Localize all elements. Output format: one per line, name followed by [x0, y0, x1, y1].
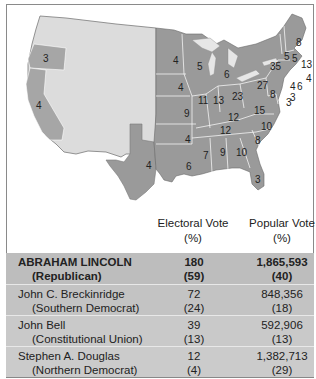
label-arkansas: 4: [185, 134, 191, 145]
electoral-cell: 180 (59): [171, 256, 217, 283]
table-row: John C. Breckinridge (Southern Democrat)…: [6, 285, 314, 316]
popular-pct: (29): [242, 364, 316, 378]
label-alabama: 9: [220, 147, 226, 158]
popular-cell: 1,382,713 (29): [242, 350, 316, 377]
label-missouri: 9: [184, 108, 190, 119]
label-minnesota: 4: [173, 55, 179, 66]
electoral-vote-header: Electoral Vote (%): [148, 216, 238, 246]
popular-pct: (13): [242, 333, 316, 347]
electoral-pct: (4): [171, 364, 217, 378]
label-michigan: 6: [224, 69, 230, 80]
label-oregon: 3: [43, 53, 49, 64]
label-wisconsin: 5: [197, 61, 203, 72]
label-mississippi: 7: [203, 150, 209, 161]
electoral-pct: (59): [171, 270, 217, 284]
label-district: 3: [286, 97, 292, 108]
electoral-votes: 39: [171, 319, 217, 333]
electoral-header-line1: Electoral Vote: [148, 216, 238, 231]
label-new-jersey: 4: [290, 81, 296, 92]
label-louisiana: 6: [186, 161, 192, 172]
popular-header-line1: Popular Vote: [242, 216, 316, 231]
popular-header-line2: (%): [242, 231, 316, 246]
table-row: John Bell (Constitutional Union) 39 (13)…: [6, 316, 314, 347]
candidate-name: John Bell: [18, 319, 65, 331]
popular-cell: 1,865,593 (40): [242, 256, 316, 283]
label-california: 4: [36, 100, 42, 111]
label-illinois: 11: [198, 95, 209, 106]
label-rhode-island: 4: [306, 73, 312, 84]
electoral-header-line2: (%): [148, 231, 238, 246]
popular-cell: 848,356 (18): [242, 288, 316, 315]
label-vermont: 5: [292, 53, 298, 64]
label-tennessee: 12: [220, 125, 232, 136]
popular-pct: (40): [242, 270, 316, 284]
candidate-name: Stephen A. Douglas: [18, 350, 120, 362]
popular-vote-header: Popular Vote (%): [242, 216, 316, 246]
candidate-cell: ABRAHAM LINCOLN (Republican): [18, 256, 132, 283]
popular-cell: 592,906 (13): [242, 319, 316, 346]
eastern-states: [154, 14, 306, 190]
us-map-svg: 3 4 4 4 5 6 4 11 13 23 27 35 8 5 5 13 4 …: [6, 4, 314, 204]
label-massachusetts: 13: [301, 59, 313, 70]
candidate-party: (Republican): [18, 270, 132, 284]
label-new-york: 35: [270, 61, 282, 72]
electoral-pct: (24): [171, 302, 217, 316]
label-indiana: 13: [213, 95, 225, 106]
label-ohio: 23: [232, 91, 244, 102]
label-virginia: 15: [254, 105, 266, 116]
candidate-party: (Southern Democrat): [18, 302, 139, 316]
results-table: ABRAHAM LINCOLN (Republican) 180 (59) 1,…: [6, 253, 314, 378]
label-pennsylvania: 27: [257, 80, 269, 91]
label-south-carolina: 8: [255, 135, 261, 146]
label-new-hampshire: 5: [284, 51, 290, 62]
electoral-cell: 39 (13): [171, 319, 217, 346]
label-georgia: 10: [236, 147, 248, 158]
table-row: Stephen A. Douglas (Northern Democrat) 1…: [6, 347, 314, 378]
popular-votes: 848,356: [242, 288, 316, 302]
candidate-name: John C. Breckinridge: [18, 288, 125, 300]
electoral-votes: 12: [171, 350, 217, 364]
candidate-party: (Constitutional Union): [18, 333, 143, 347]
popular-pct: (18): [242, 302, 316, 316]
electoral-votes: 72: [171, 288, 217, 302]
electoral-cell: 12 (4): [171, 350, 217, 377]
label-north-carolina: 10: [261, 121, 273, 132]
electoral-votes: 180: [171, 256, 217, 270]
label-maryland: 8: [270, 89, 276, 100]
candidate-cell: John Bell (Constitutional Union): [18, 319, 143, 346]
table-header: Electoral Vote (%) Popular Vote (%): [6, 216, 314, 256]
candidate-name: ABRAHAM LINCOLN: [18, 256, 132, 268]
candidate-cell: John C. Breckinridge (Southern Democrat): [18, 288, 139, 315]
candidate-party: (Northern Democrat): [18, 364, 137, 378]
label-kentucky: 12: [228, 112, 240, 123]
label-maine: 8: [296, 37, 302, 48]
label-iowa: 4: [178, 82, 184, 93]
label-connecticut: 6: [297, 81, 303, 92]
popular-votes: 1,382,713: [242, 350, 316, 364]
popular-votes: 1,865,593: [242, 256, 316, 270]
popular-votes: 592,906: [242, 319, 316, 333]
election-map-1860: 3 4 4 4 5 6 4 11 13 23 27 35 8 5 5 13 4 …: [6, 4, 314, 204]
label-florida: 3: [255, 174, 261, 185]
table-row: ABRAHAM LINCOLN (Republican) 180 (59) 1,…: [6, 253, 314, 285]
electoral-cell: 72 (24): [171, 288, 217, 315]
electoral-pct: (13): [171, 333, 217, 347]
label-texas: 4: [146, 160, 152, 171]
candidate-cell: Stephen A. Douglas (Northern Democrat): [18, 350, 137, 377]
